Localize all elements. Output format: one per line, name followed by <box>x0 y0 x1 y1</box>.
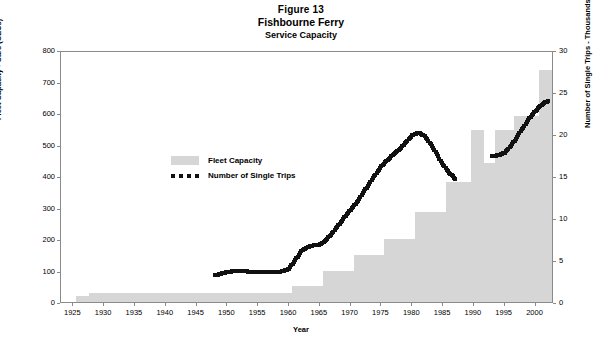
y-tick-mark-right <box>553 51 556 52</box>
figure-name: Fishbourne Ferry <box>0 16 602 29</box>
x-tick-mark <box>196 303 197 306</box>
x-tick-label: 1950 <box>209 309 243 317</box>
x-tick-label: 1935 <box>117 309 151 317</box>
x-tick-label: 1995 <box>487 309 521 317</box>
legend: Fleet Capacity Number of Single Trips <box>171 153 296 183</box>
y-tick-label-left: 0 <box>23 299 55 307</box>
y-tick-label-right: 10 <box>559 215 585 223</box>
chart-title-block: Figure 13 Fishbourne Ferry Service Capac… <box>0 4 602 41</box>
x-tick-mark <box>72 303 73 306</box>
y-tick-label-left: 300 <box>23 205 55 213</box>
figure-subtitle: Service Capacity <box>0 29 602 41</box>
legend-dotted-line-icon <box>171 171 199 180</box>
x-tick-mark <box>226 303 227 306</box>
x-tick-label: 1925 <box>55 309 89 317</box>
data-point <box>546 99 550 103</box>
x-tick-mark <box>504 303 505 306</box>
x-tick-mark <box>380 303 381 306</box>
x-tick-mark <box>165 303 166 306</box>
legend-label: Fleet Capacity <box>208 156 262 165</box>
y-tick-label-left: 500 <box>23 142 55 150</box>
legend-swatch-icon <box>171 156 199 165</box>
x-tick-mark <box>288 303 289 306</box>
y-axis-label-right: Number of Single Trips - Thousands <box>583 0 592 128</box>
x-tick-mark <box>257 303 258 306</box>
y-tick-label-left: 700 <box>23 79 55 87</box>
x-tick-mark <box>535 303 536 306</box>
legend-item-fleet-capacity: Fleet Capacity <box>171 153 296 168</box>
y-tick-mark-right <box>553 135 556 136</box>
x-tick-label: 1930 <box>86 309 120 317</box>
y-tick-label-left: 800 <box>23 47 55 55</box>
x-tick-label: 1955 <box>240 309 274 317</box>
y-tick-mark-right <box>553 261 556 262</box>
x-tick-label: 2000 <box>518 309 552 317</box>
figure-number: Figure 13 <box>0 4 602 16</box>
x-tick-mark <box>411 303 412 306</box>
y-tick-label-left: 600 <box>23 110 55 118</box>
legend-label: Number of Single Trips <box>208 171 296 180</box>
y-axis-label-left: Fleet Capacity - Cars (CEUs) <box>0 19 3 120</box>
y-tick-label-left: 100 <box>23 268 55 276</box>
x-tick-label: 1970 <box>333 309 367 317</box>
x-tick-label: 1965 <box>302 309 336 317</box>
x-tick-label: 1980 <box>394 309 428 317</box>
x-axis-label: Year <box>0 325 602 334</box>
x-tick-label: 1985 <box>425 309 459 317</box>
x-tick-mark <box>473 303 474 306</box>
y-tick-label-right: 0 <box>559 299 585 307</box>
y-tick-label-left: 200 <box>23 236 55 244</box>
y-tick-mark-left <box>57 303 60 304</box>
x-tick-mark <box>103 303 104 306</box>
x-tick-label: 1960 <box>271 309 305 317</box>
y-tick-mark-right <box>553 177 556 178</box>
plot-area: Fleet Capacity Number of Single Trips <box>60 51 553 303</box>
x-tick-label: 1945 <box>179 309 213 317</box>
y-tick-mark-right <box>553 219 556 220</box>
plot-canvas <box>61 52 552 302</box>
y-tick-label-right: 25 <box>559 89 585 97</box>
x-tick-mark <box>319 303 320 306</box>
x-tick-label: 1990 <box>456 309 490 317</box>
x-tick-label: 1940 <box>148 309 182 317</box>
legend-item-single-trips: Number of Single Trips <box>171 168 296 183</box>
y-tick-mark-right <box>553 93 556 94</box>
figure-container: Figure 13 Fishbourne Ferry Service Capac… <box>0 0 602 346</box>
y-tick-label-left: 400 <box>23 173 55 181</box>
y-tick-label-right: 30 <box>559 47 585 55</box>
y-tick-label-right: 15 <box>559 173 585 181</box>
data-point <box>453 177 457 181</box>
y-tick-label-right: 20 <box>559 131 585 139</box>
y-tick-label-right: 5 <box>559 257 585 265</box>
x-tick-mark <box>442 303 443 306</box>
x-tick-mark <box>134 303 135 306</box>
x-tick-mark <box>350 303 351 306</box>
y-tick-mark-right <box>553 303 556 304</box>
x-tick-label: 1975 <box>363 309 397 317</box>
